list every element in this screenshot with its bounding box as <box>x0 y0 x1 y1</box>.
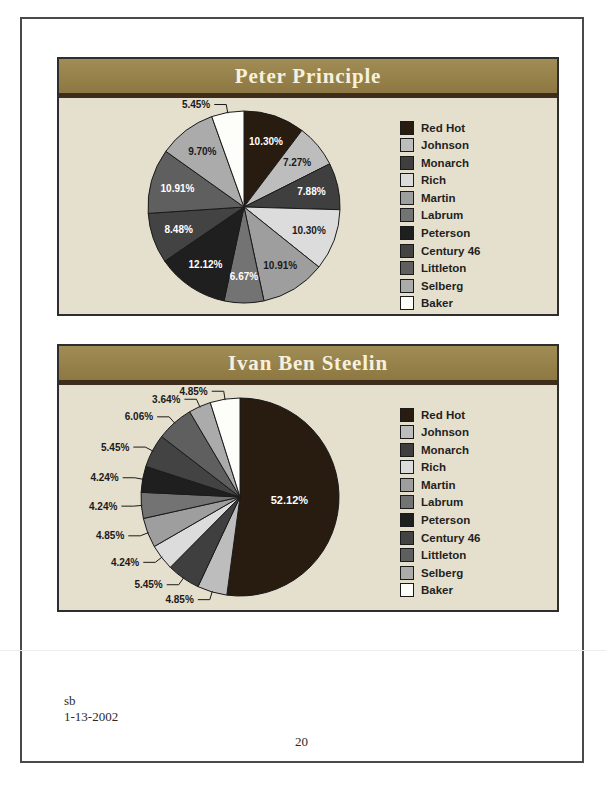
slice-label: 5.45% <box>134 579 162 590</box>
pie-svg-2: 52.12%4.85%5.45%4.24%4.85%4.24%4.24%5.45… <box>59 385 557 610</box>
legend-item: Baker <box>400 584 480 597</box>
chart-panel-ivan-ben-steelin: Ivan Ben Steelin 52.12%4.85%5.45%4.24%4.… <box>57 344 559 612</box>
slice-label: 4.85% <box>179 386 207 397</box>
chart-plot-area: 10.30%7.27%7.88%10.30%10.91%6.67%12.12%8… <box>59 98 557 314</box>
legend-swatch <box>400 531 414 545</box>
page-number: 20 <box>295 734 308 750</box>
legend-item: Johnson <box>400 426 480 439</box>
legend-item: Red Hot <box>400 121 480 134</box>
slice-label: 4.85% <box>165 594 193 605</box>
legend-item: Monarch <box>400 443 480 456</box>
legend-swatch <box>400 583 414 597</box>
chart-header-bar: Ivan Ben Steelin <box>59 346 557 380</box>
legend-2: Red HotJohnsonMonarchRichMartinLabrumPet… <box>400 408 480 597</box>
legend-label: Johnson <box>421 139 469 151</box>
divider-line <box>0 650 606 651</box>
legend-swatch <box>400 173 414 187</box>
legend-item: Selberg <box>400 566 480 579</box>
legend-label: Monarch <box>421 444 469 456</box>
slice-label: 9.70% <box>188 146 216 157</box>
slice-label: 10.91% <box>263 260 297 271</box>
legend-label: Littleton <box>421 549 466 561</box>
legend-item: Rich <box>400 174 480 187</box>
legend-item: Rich <box>400 461 480 474</box>
legend-1: Red HotJohnsonMonarchRichMartinLabrumPet… <box>400 121 480 310</box>
legend-item: Martin <box>400 191 480 204</box>
legend-label: Baker <box>421 297 453 309</box>
slice-label: 4.85% <box>96 530 124 541</box>
legend-label: Martin <box>421 192 456 204</box>
slice-label: 4.24% <box>111 557 139 568</box>
chart-panel-peter-principle: Peter Principle 10.30%7.27%7.88%10.30%10… <box>57 57 559 316</box>
legend-label: Martin <box>421 479 456 491</box>
legend-item: Martin <box>400 478 480 491</box>
footer-date: 1-13-2002 <box>64 709 118 725</box>
label-leader-line <box>157 417 175 424</box>
legend-item: Century 46 <box>400 244 480 257</box>
legend-label: Labrum <box>421 209 463 221</box>
legend-swatch <box>400 121 414 135</box>
legend-swatch <box>400 460 414 474</box>
legend-swatch <box>400 296 414 310</box>
legend-label: Johnson <box>421 426 469 438</box>
legend-label: Rich <box>421 174 446 186</box>
legend-swatch <box>400 138 414 152</box>
label-leader-line <box>133 447 153 451</box>
legend-swatch <box>400 478 414 492</box>
legend-label: Rich <box>421 461 446 473</box>
slice-label: 10.30% <box>292 225 326 236</box>
chart-title: Peter Principle <box>235 64 381 89</box>
legend-item: Peterson <box>400 227 480 240</box>
footer-author: sb <box>64 693 76 709</box>
slice-label: 10.91% <box>161 183 195 194</box>
legend-swatch <box>400 495 414 509</box>
legend-label: Baker <box>421 584 453 596</box>
label-leader-line <box>128 533 148 536</box>
legend-label: Century 46 <box>421 532 480 544</box>
legend-item: Century 46 <box>400 531 480 544</box>
label-leader-line <box>212 391 225 400</box>
legend-item: Johnson <box>400 139 480 152</box>
slice-label: 5.45% <box>182 99 210 110</box>
legend-swatch <box>400 261 414 275</box>
slice-label: 6.67% <box>230 271 258 282</box>
legend-label: Peterson <box>421 227 470 239</box>
legend-swatch <box>400 566 414 580</box>
legend-item: Baker <box>400 297 480 310</box>
legend-swatch <box>400 279 414 293</box>
slice-label: 7.88% <box>297 186 325 197</box>
legend-label: Monarch <box>421 157 469 169</box>
slice-label: 4.24% <box>89 501 117 512</box>
legend-label: Selberg <box>421 567 463 579</box>
label-leader-line <box>214 105 228 114</box>
chart-plot-area: 52.12%4.85%5.45%4.24%4.85%4.24%4.24%5.45… <box>59 385 557 610</box>
slice-label: 12.12% <box>189 259 223 270</box>
legend-item: Monarch <box>400 156 480 169</box>
legend-label: Peterson <box>421 514 470 526</box>
label-leader-line <box>167 577 184 584</box>
legend-label: Century 46 <box>421 245 480 257</box>
legend-swatch <box>400 548 414 562</box>
legend-swatch <box>400 208 414 222</box>
legend-swatch <box>400 408 414 422</box>
legend-swatch <box>400 156 414 170</box>
legend-label: Selberg <box>421 280 463 292</box>
legend-swatch <box>400 443 414 457</box>
legend-item: Littleton <box>400 549 480 562</box>
slice-label: 5.45% <box>101 442 129 453</box>
legend-swatch <box>400 191 414 205</box>
label-leader-line <box>123 478 144 480</box>
slice-label: 10.30% <box>249 136 283 147</box>
legend-label: Labrum <box>421 496 463 508</box>
slice-label: 6.06% <box>125 411 153 422</box>
slice-label: 3.64% <box>152 394 180 405</box>
legend-label: Littleton <box>421 262 466 274</box>
label-leader-line <box>143 557 162 562</box>
legend-label: Red Hot <box>421 122 465 134</box>
label-leader-line <box>121 505 142 506</box>
legend-item: Littleton <box>400 262 480 275</box>
legend-item: Selberg <box>400 279 480 292</box>
legend-swatch <box>400 513 414 527</box>
legend-swatch <box>400 226 414 240</box>
legend-item: Peterson <box>400 514 480 527</box>
